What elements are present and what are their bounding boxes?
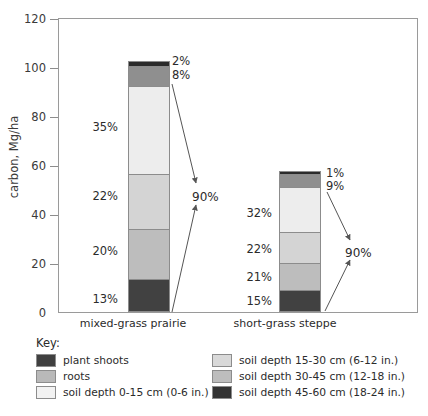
pct-label-left-soil-0-15: 35% — [84, 122, 118, 134]
legend-item-soil-15-30[interactable]: soil depth 15-30 cm (6-12 in.) — [212, 354, 405, 367]
pct-label-left-soil-30-45: 22% — [84, 191, 118, 203]
bar-segment-roots — [279, 174, 321, 188]
pct-label-left-soil-45-60: 20% — [84, 246, 118, 258]
legend-title: Key: — [36, 336, 428, 350]
bar-mixed-grass-prairie — [128, 61, 170, 312]
pct-label-right-plant-shoots: 15% — [238, 296, 272, 308]
legend-item-soil-30-45[interactable]: soil depth 30-45 cm (12-18 in.) — [212, 370, 405, 383]
category-label-mixed-grass-prairie: mixed-grass prairie — [63, 317, 203, 330]
bar-segment-plant-shoots — [279, 290, 321, 312]
category-label-short-grass-steppe: short-grass steppe — [215, 317, 355, 330]
legend-swatch-roots — [36, 370, 56, 383]
bar-short-grass-steppe — [279, 171, 321, 312]
legend-swatch-soil-15-30 — [212, 354, 232, 367]
legend-item-roots[interactable]: roots — [36, 370, 212, 383]
y-tick-mark-20 — [50, 264, 58, 265]
legend-swatch-plant-shoots — [36, 354, 56, 367]
y-tick-label-0: 0 — [12, 308, 46, 320]
legend-label-soil-30-45: soil depth 30-45 cm (12-18 in.) — [239, 370, 405, 383]
y-tick-label-40: 40 — [12, 210, 46, 222]
pct-label-right-roots: 9% — [326, 181, 344, 193]
pct-label-right-soil-45-60: 21% — [238, 272, 272, 284]
pct-label-right-soil-0-15: 32% — [238, 208, 272, 220]
y-tick-label-60: 60 — [12, 161, 46, 173]
y-axis-label: carbon, Mg/ha — [7, 47, 21, 267]
y-tick-mark-100 — [50, 68, 58, 69]
legend-swatch-soil-0-15 — [36, 386, 56, 399]
pct-label-right-soil-30-45: 22% — [238, 244, 272, 256]
legend-label-soil-15-30: soil depth 15-30 cm (6-12 in.) — [239, 354, 398, 367]
pct-label-left-soil-15-30: 2% — [172, 56, 190, 68]
legend-item-plant-shoots[interactable]: plant shoots — [36, 354, 212, 367]
callout-right-90-percent: 90% — [345, 246, 372, 260]
y-tick-label-20: 20 — [12, 259, 46, 271]
legend-swatch-soil-45-60 — [212, 386, 232, 399]
bar-segment-soil-30-45 — [279, 232, 321, 264]
legend-swatch-soil-30-45 — [212, 370, 232, 383]
legend-column-left: plant shoots roots soil depth 0-15 cm (0… — [36, 354, 212, 399]
legend-item-soil-0-15[interactable]: soil depth 0-15 cm (0-6 in.) — [36, 386, 212, 399]
legend-item-soil-45-60[interactable]: soil depth 45-60 cm (18-24 in.) — [212, 386, 405, 399]
y-tick-label-120: 120 — [12, 14, 46, 26]
callout-left-90-percent: 90% — [192, 190, 219, 204]
plot-area — [58, 18, 418, 313]
y-tick-mark-120 — [50, 19, 58, 20]
bar-segment-soil-45-60 — [128, 229, 170, 280]
y-tick-mark-60 — [50, 166, 58, 167]
bar-segment-soil-0-15 — [128, 86, 170, 175]
bar-segment-soil-0-15 — [279, 187, 321, 233]
pct-label-left-roots: 8% — [172, 70, 190, 82]
figure-stacked-bar-chart: carbon, Mg/ha 120 100 80 60 40 20 0 — [0, 0, 428, 416]
y-tick-label-80: 80 — [12, 112, 46, 124]
bar-segment-soil-45-60 — [279, 263, 321, 291]
bar-segment-soil-30-45 — [128, 174, 170, 230]
legend: Key: plant shoots roots soil depth 0-15 … — [36, 336, 428, 399]
pct-label-right-soil-15-30: 1% — [326, 168, 344, 180]
legend-label-plant-shoots: plant shoots — [63, 354, 129, 367]
legend-label-roots: roots — [63, 370, 90, 383]
y-tick-mark-40 — [50, 215, 58, 216]
y-tick-label-100: 100 — [12, 63, 46, 75]
y-tick-mark-80 — [50, 117, 58, 118]
legend-label-soil-0-15: soil depth 0-15 cm (0-6 in.) — [63, 386, 209, 399]
bar-segment-roots — [128, 66, 170, 87]
pct-label-left-plant-shoots: 13% — [84, 294, 118, 306]
legend-column-right: soil depth 15-30 cm (6-12 in.) soil dept… — [212, 354, 405, 399]
bar-segment-plant-shoots — [128, 279, 170, 312]
legend-label-soil-45-60: soil depth 45-60 cm (18-24 in.) — [239, 386, 405, 399]
